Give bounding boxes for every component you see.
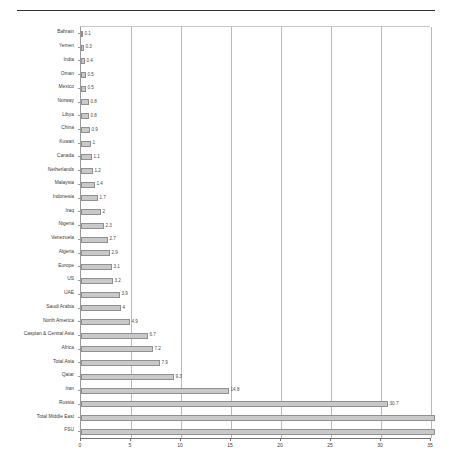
x-tick-15: [230, 438, 231, 441]
x-tick-label-15: 15: [227, 443, 233, 448]
bar-value-label: 0.8: [91, 100, 97, 105]
category-label: Russia: [0, 396, 77, 410]
bar-rows: 0.10.30.40.50.50.80.80.911.11.21.41.722.…: [81, 27, 430, 438]
gridline-35: [431, 27, 432, 438]
category-tick: [78, 390, 80, 391]
bar-canada: [81, 154, 92, 160]
bar-iraq: [81, 209, 101, 215]
category-axis-labels: BahrainYemenIndiaOmanMexicoNorwayLibyaCh…: [0, 26, 77, 438]
bar-value-label: 0.5: [88, 86, 94, 91]
category-tick: [78, 198, 80, 199]
category-label: Norway: [0, 95, 77, 109]
bar-saudi-arabia: [81, 305, 121, 311]
bar-value-label: 0.3: [86, 45, 92, 50]
bar-uae: [81, 292, 120, 298]
bar-value-label: 0.4: [87, 59, 93, 64]
bar-row: 0.8: [81, 109, 430, 123]
category-tick: [78, 184, 80, 185]
category-tick: [78, 225, 80, 226]
bar-value-label: 0.1: [85, 32, 91, 37]
plot-area: 0.10.30.40.50.50.80.80.911.11.21.41.722.…: [80, 26, 430, 438]
category-tick: [78, 211, 80, 212]
category-label: Caspian & Central Asia: [0, 328, 77, 342]
bar-value-label: 1.7: [100, 196, 106, 201]
bar-oman: [81, 72, 86, 78]
bar-total-middle-east: [81, 415, 435, 421]
bar-value-label: 1.4: [97, 182, 103, 187]
top-divider-rule: [17, 10, 435, 11]
category-tick: [78, 404, 80, 405]
x-tick-label-0: 0: [79, 443, 82, 448]
bar-row: 7.2: [81, 343, 430, 357]
category-label: Algeria: [0, 246, 77, 260]
bar-value-label: 3.1: [114, 265, 120, 270]
category-tick: [78, 60, 80, 61]
bar-row: 0.1: [81, 27, 430, 41]
category-label: Netherlands: [0, 163, 77, 177]
category-label: Oman: [0, 67, 77, 81]
category-label: Kuwait: [0, 136, 77, 150]
category-tick: [78, 266, 80, 267]
bar-row: 2.9: [81, 247, 430, 261]
category-tick: [78, 33, 80, 34]
category-label: Yemen: [0, 40, 77, 54]
category-label: Iran: [0, 383, 77, 397]
category-tick: [78, 88, 80, 89]
bar-row: 9.3: [81, 370, 430, 384]
category-label: India: [0, 53, 77, 67]
bar-value-label: 0.8: [91, 114, 97, 119]
category-tick: [78, 431, 80, 432]
bar-caspian-central-asia: [81, 333, 148, 339]
bar-row: 1.2: [81, 164, 430, 178]
category-label: China: [0, 122, 77, 136]
bar-row: 14.8: [81, 384, 430, 398]
bar-value-label: 6.7: [150, 333, 156, 338]
category-label: Saudi Arabia: [0, 300, 77, 314]
category-tick: [78, 74, 80, 75]
category-tick: [78, 362, 80, 363]
category-label: Iraq: [0, 204, 77, 218]
bar-value-label: 4: [123, 306, 126, 311]
bar-value-label: 0.5: [88, 73, 94, 78]
bar-value-label: 9.3: [176, 375, 182, 380]
bar-row: 6.7: [81, 329, 430, 343]
category-tick: [78, 47, 80, 48]
bar-nigeria: [81, 223, 104, 229]
bar-value-label: 2: [103, 210, 106, 215]
bar-russia: [81, 401, 388, 407]
x-tick-label-30: 30: [377, 443, 383, 448]
x-tick-label-5: 5: [129, 443, 132, 448]
category-tick: [78, 129, 80, 130]
category-tick: [78, 335, 80, 336]
bar-value-label: 2.7: [110, 237, 116, 242]
category-tick: [78, 308, 80, 309]
bar-total-asia: [81, 360, 160, 366]
x-tick-30: [380, 438, 381, 441]
bar-row: 4.9: [81, 315, 430, 329]
category-label: Total Middle East: [0, 410, 77, 424]
bar-us: [81, 278, 113, 284]
bar-row: 1.7: [81, 192, 430, 206]
category-label: Bahrain: [0, 26, 77, 40]
category-label: Mexico: [0, 81, 77, 95]
bar-value-label: 1: [93, 141, 96, 146]
x-tick-20: [280, 438, 281, 441]
bar-netherlands: [81, 168, 93, 174]
bar-row: 0.5: [81, 68, 430, 82]
bar-row: 0.3: [81, 41, 430, 55]
bar-qatar: [81, 374, 174, 380]
x-tick-25: [330, 438, 331, 441]
bar-norway: [81, 99, 89, 105]
category-label: Total Asia: [0, 355, 77, 369]
category-tick: [78, 349, 80, 350]
bar-row: 3.2: [81, 274, 430, 288]
category-label: Venezuela: [0, 232, 77, 246]
bar-indonesia: [81, 195, 98, 201]
x-tick-35: [430, 438, 431, 441]
category-tick: [78, 376, 80, 377]
bar-china: [81, 127, 90, 133]
bar-iran: [81, 388, 229, 394]
bar-north-america: [81, 319, 130, 325]
bar-row: 1.1: [81, 150, 430, 164]
bar-value-label: 30.7: [390, 402, 399, 407]
